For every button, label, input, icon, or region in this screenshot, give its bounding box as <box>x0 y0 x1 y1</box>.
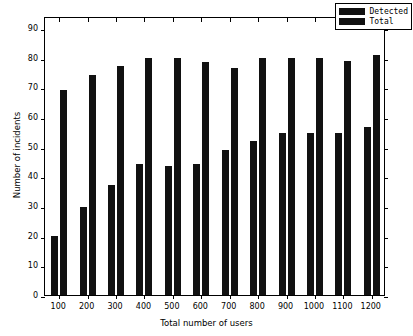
x-tick-mark <box>287 295 288 299</box>
bar-detected-1100 <box>335 133 342 295</box>
bar-total-600 <box>202 62 209 295</box>
chart-figure: 0102030405060708090 10020030040050060070… <box>0 0 413 336</box>
x-axis-title: Total number of users <box>0 318 413 328</box>
bar-group <box>307 18 323 295</box>
bar-total-1100 <box>344 61 351 295</box>
bar-total-100 <box>60 90 67 295</box>
y-tick-mark <box>41 178 45 179</box>
y-tick-mark-right <box>384 178 388 179</box>
x-tick-mark-top <box>88 18 89 22</box>
x-tick-mark <box>230 295 231 299</box>
bar-group <box>108 18 124 295</box>
x-tick-mark <box>372 295 373 299</box>
bar-group <box>51 18 67 295</box>
x-tick-mark <box>315 295 316 299</box>
legend-swatch-detected <box>339 8 365 15</box>
legend-item-detected: Detected <box>339 7 408 16</box>
bar-detected-100 <box>51 236 58 295</box>
legend-swatch-total <box>339 18 365 25</box>
bar-group <box>335 18 351 295</box>
bar-group <box>193 18 209 295</box>
bar-detected-300 <box>108 185 115 295</box>
legend-label-detected: Detected <box>369 8 408 16</box>
bar-detected-200 <box>80 207 87 295</box>
bar-group <box>222 18 238 295</box>
x-tick-mark-top <box>315 18 316 22</box>
y-tick-label: 70 <box>8 84 38 92</box>
bar-detected-900 <box>279 133 286 295</box>
x-tick-mark <box>116 295 117 299</box>
x-tick-mark <box>343 295 344 299</box>
x-tick-mark <box>88 295 89 299</box>
x-tick-mark-top <box>230 18 231 22</box>
y-tick-mark-right <box>384 149 388 150</box>
bar-total-800 <box>259 58 266 295</box>
y-tick-mark <box>41 297 45 298</box>
y-tick-mark <box>41 89 45 90</box>
y-tick-label: 20 <box>8 233 38 241</box>
bar-detected-600 <box>193 164 200 295</box>
y-tick-mark <box>41 208 45 209</box>
legend-label-total: Total <box>369 18 393 26</box>
y-tick-mark-right <box>384 238 388 239</box>
y-tick-mark <box>41 149 45 150</box>
bar-group <box>80 18 96 295</box>
x-tick-mark <box>201 295 202 299</box>
y-tick-mark <box>41 267 45 268</box>
bar-detected-500 <box>165 166 172 295</box>
bar-total-300 <box>117 66 124 295</box>
x-tick-mark-top <box>59 18 60 22</box>
y-tick-label: 0 <box>8 292 38 300</box>
bar-group <box>279 18 295 295</box>
bar-group <box>136 18 152 295</box>
y-tick-label: 10 <box>8 262 38 270</box>
bar-total-1000 <box>316 58 323 295</box>
bar-group <box>250 18 266 295</box>
y-tick-mark-right <box>384 297 388 298</box>
y-tick-mark-right <box>384 208 388 209</box>
x-tick-mark <box>258 295 259 299</box>
y-tick-mark-right <box>384 89 388 90</box>
chart-legend: Detected Total <box>335 3 412 30</box>
y-tick-mark <box>41 119 45 120</box>
y-tick-mark-right <box>384 119 388 120</box>
bar-total-200 <box>89 75 96 295</box>
bar-total-400 <box>145 58 152 295</box>
bar-group <box>364 18 380 295</box>
y-tick-mark-right <box>384 267 388 268</box>
x-tick-mark-top <box>144 18 145 22</box>
x-tick-mark-top <box>116 18 117 22</box>
y-tick-mark-right <box>384 30 388 31</box>
y-tick-mark <box>41 60 45 61</box>
bar-detected-400 <box>136 164 143 295</box>
bar-total-1200 <box>373 55 380 295</box>
y-axis-title: Number of incidents <box>12 95 22 215</box>
x-tick-mark-top <box>173 18 174 22</box>
x-tick-mark-top <box>287 18 288 22</box>
bar-group <box>165 18 181 295</box>
y-tick-label: 80 <box>8 55 38 63</box>
x-tick-mark <box>173 295 174 299</box>
x-tick-mark <box>59 295 60 299</box>
y-tick-mark <box>41 30 45 31</box>
plot-area <box>44 17 385 296</box>
bar-detected-1000 <box>307 133 314 295</box>
legend-item-total: Total <box>339 17 408 26</box>
x-tick-mark <box>144 295 145 299</box>
bar-total-500 <box>174 58 181 295</box>
bar-total-900 <box>288 58 295 295</box>
x-tick-label: 1200 <box>351 303 391 311</box>
y-tick-mark <box>41 238 45 239</box>
bar-detected-700 <box>222 150 229 295</box>
bars-layer <box>45 18 384 295</box>
y-tick-mark-right <box>384 60 388 61</box>
bar-detected-1200 <box>364 127 371 295</box>
y-tick-label: 90 <box>8 25 38 33</box>
x-tick-mark-top <box>201 18 202 22</box>
x-tick-mark-top <box>258 18 259 22</box>
bar-detected-800 <box>250 141 257 295</box>
bar-total-700 <box>231 68 238 295</box>
